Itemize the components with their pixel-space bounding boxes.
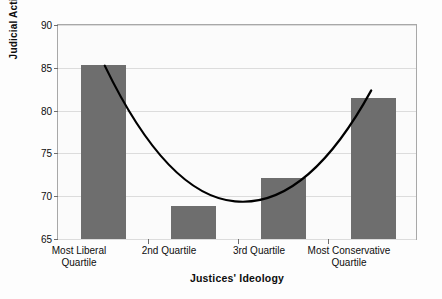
x-category-label-4: Most Conservative Quartile (294, 245, 404, 269)
x-category-label-1-line-2: Quartile (24, 257, 134, 269)
chart-figure: Judicial Activism 65 70 75 80 85 90 (0, 0, 442, 299)
y-tick-label-85: 85 (41, 62, 52, 73)
y-tick-label-80: 80 (41, 105, 52, 116)
y-tick-label-75: 75 (41, 148, 52, 159)
x-tick-mark-3 (328, 239, 329, 244)
x-category-label-4-line-1: Most Conservative (294, 245, 404, 257)
y-tick-label-90: 90 (41, 20, 52, 31)
x-axis-title: Justices' Ideology (57, 272, 417, 284)
y-axis-title: Judicial Activism (8, 0, 24, 92)
x-category-label-4-line-2: Quartile (294, 257, 404, 269)
y-tick-mark-65 (54, 239, 58, 240)
y-tick-label-65: 65 (41, 234, 52, 245)
x-tick-mark-1 (148, 239, 149, 244)
gridline-65 (58, 239, 416, 240)
trend-curve-path (105, 66, 372, 202)
plot-area: 65 70 75 80 85 90 (57, 24, 417, 240)
trend-curve (58, 25, 416, 239)
x-tick-mark-2 (238, 239, 239, 244)
y-tick-label-70: 70 (41, 191, 52, 202)
